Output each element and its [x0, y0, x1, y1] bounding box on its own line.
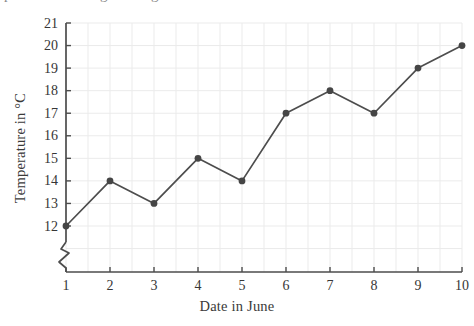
data-point-marker — [239, 177, 246, 184]
data-point-marker — [327, 87, 334, 94]
y-tick-label: 20 — [44, 38, 58, 53]
x-tick-label: 7 — [327, 278, 334, 293]
y-tick-label: 16 — [44, 128, 58, 143]
x-axis-label: Date in June — [0, 298, 474, 315]
x-tick-label: 10 — [455, 278, 469, 293]
x-tick-label: 4 — [195, 278, 202, 293]
x-tick-label: 3 — [151, 278, 158, 293]
data-point-marker — [415, 65, 422, 72]
axes — [59, 23, 462, 272]
temperature-line-chart: 1213141516171819202112345678910 — [0, 0, 474, 326]
x-tick-label: 5 — [239, 278, 246, 293]
data-point-marker — [63, 223, 70, 230]
data-point-marker — [151, 200, 158, 207]
data-point-marker — [195, 155, 202, 162]
temperature-line-chart-figure: pgg 1213141516171819202112345678910 Date… — [0, 0, 474, 326]
data-point-marker — [371, 110, 378, 117]
y-axis-break-symbol — [59, 242, 69, 268]
y-axis-label: Temperature in °C — [12, 93, 29, 203]
tick-labels: 1213141516171819202112345678910 — [44, 16, 469, 294]
data-point-marker — [107, 177, 114, 184]
y-tick-label: 17 — [44, 106, 58, 121]
y-tick-label: 21 — [44, 16, 58, 31]
y-tick-label: 18 — [44, 83, 58, 98]
y-tick-label: 15 — [44, 151, 58, 166]
y-tick-label: 12 — [44, 219, 58, 234]
y-tick-label: 19 — [44, 61, 58, 76]
x-tick-label: 2 — [107, 278, 114, 293]
y-tick-label: 13 — [44, 196, 58, 211]
y-tick-label: 14 — [44, 173, 58, 188]
x-tick-label: 6 — [283, 278, 290, 293]
x-tick-label: 1 — [63, 278, 70, 293]
data-point-marker — [459, 42, 466, 49]
x-tick-label: 9 — [415, 278, 422, 293]
data-point-marker — [283, 110, 290, 117]
x-tick-label: 8 — [371, 278, 378, 293]
